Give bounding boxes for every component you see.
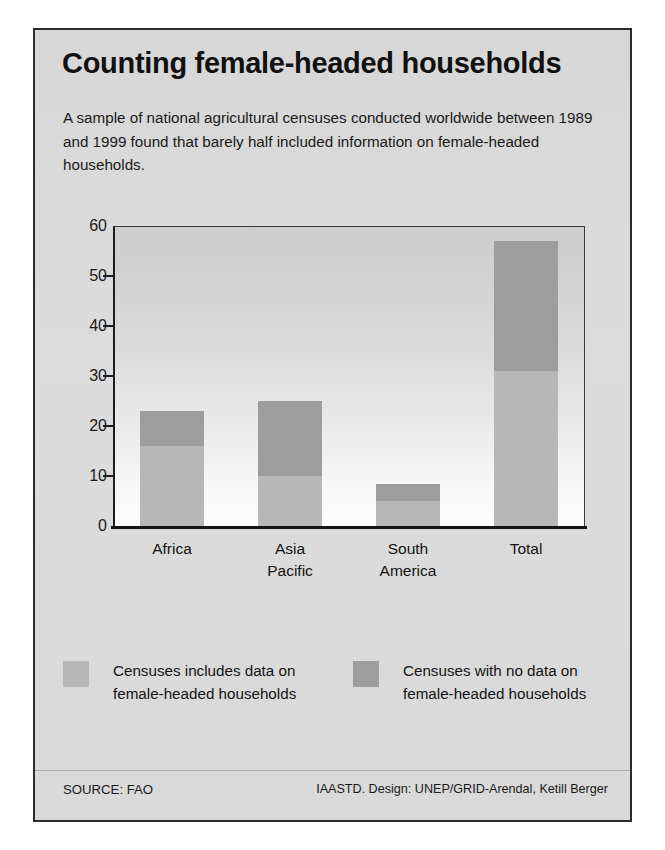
y-axis-tick <box>103 325 113 327</box>
legend-label: Censuses with no data on female-headed h… <box>403 660 608 706</box>
bar-segment-includes-data <box>376 501 440 526</box>
category-label: Africa <box>113 538 231 560</box>
infographic-card: Counting female-headed households A samp… <box>33 28 632 822</box>
y-tick-label: 60 <box>89 217 107 235</box>
y-axis-tick <box>103 425 113 427</box>
chart-page: Counting female-headed households A samp… <box>0 0 665 850</box>
legend-label: Censuses includes data on female-headed … <box>113 660 328 706</box>
bar-group <box>140 411 204 526</box>
x-axis-category-labels: AfricaAsiaPacificSouthAmericaTotal <box>113 538 585 594</box>
category-label-line: Asia <box>231 538 349 560</box>
category-label-line: Pacific <box>231 560 349 582</box>
bar-segment-no-data <box>376 484 440 502</box>
credit-text: IAASTD. Design: UNEP/GRID-Arendal, Ketil… <box>316 782 608 796</box>
x-axis-baseline <box>111 526 587 529</box>
category-label: Total <box>467 538 585 560</box>
page-title: Counting female-headed households <box>62 48 607 80</box>
bar-segment-no-data <box>258 401 322 476</box>
bar-segment-no-data <box>494 241 558 371</box>
category-label: SouthAmerica <box>349 538 467 582</box>
source-text: SOURCE: FAO <box>63 782 153 797</box>
chart-legend: Censuses includes data on female-headed … <box>63 660 608 760</box>
category-label-line: South <box>349 538 467 560</box>
bar-group <box>494 241 558 526</box>
category-label-line: America <box>349 560 467 582</box>
y-tick-label: 0 <box>98 517 107 535</box>
y-axis-tick <box>103 375 113 377</box>
category-label-line: Africa <box>113 538 231 560</box>
legend-swatch-no-data <box>353 661 379 687</box>
footer: SOURCE: FAO IAASTD. Design: UNEP/GRID-Ar… <box>63 782 608 806</box>
legend-swatch-includes-data <box>63 661 89 687</box>
legend-item: Censuses with no data on female-headed h… <box>353 660 608 706</box>
bar-segment-includes-data <box>258 476 322 526</box>
category-label: AsiaPacific <box>231 538 349 582</box>
bar-segment-no-data <box>140 411 204 446</box>
category-label-line: Total <box>467 538 585 560</box>
y-axis-tick <box>103 275 113 277</box>
y-axis-tick <box>103 475 113 477</box>
bar-group <box>376 484 440 527</box>
bar-group <box>258 401 322 526</box>
chart-area: 0102030405060 AfricaAsiaPacificSouthAmer… <box>63 226 608 586</box>
chart-subtitle: A sample of national agricultural census… <box>63 106 593 177</box>
y-axis-labels: 0102030405060 <box>63 226 107 536</box>
bar-segment-includes-data <box>140 446 204 526</box>
footer-divider <box>35 770 630 771</box>
bar-series-layer <box>113 226 585 526</box>
bar-segment-includes-data <box>494 371 558 526</box>
legend-item: Censuses includes data on female-headed … <box>63 660 328 706</box>
